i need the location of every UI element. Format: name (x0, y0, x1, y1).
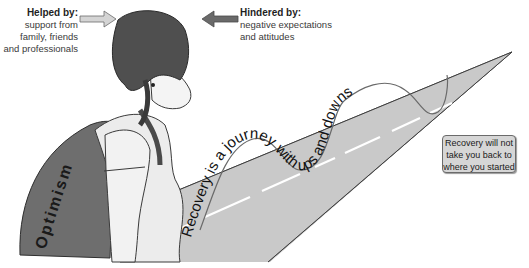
helped-by-line: support from (0, 19, 78, 31)
note-line: where you started (443, 161, 515, 173)
hindered-by-title: Hindered by: (240, 7, 390, 19)
helped-arrow-icon (80, 11, 116, 27)
hindered-by-line: and attitudes (240, 31, 390, 43)
recovery-journey-diagram: Recovery is a journey with ups and downs… (0, 0, 529, 268)
helped-by-line: and professionals (0, 43, 78, 55)
note-line: take you back to (443, 149, 515, 161)
hindered-by-line: negative expectations (240, 19, 390, 31)
recovery-note-box: Recovery will not take you back to where… (442, 135, 516, 173)
helped-by-title: Helped by: (0, 7, 78, 19)
hindered-arrow-icon (202, 11, 238, 27)
helped-by-block: Helped by: support from family, friends … (0, 7, 78, 55)
hindered-by-block: Hindered by: negative expectations and a… (240, 7, 390, 43)
note-line: Recovery will not (443, 137, 515, 149)
helped-by-line: family, friends (0, 31, 78, 43)
hair (112, 11, 188, 91)
